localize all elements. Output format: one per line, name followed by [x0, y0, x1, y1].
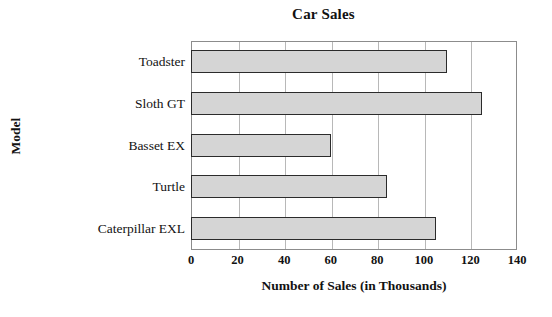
bar: [191, 134, 331, 157]
y-axis-category-labels: ToadsterSloth GTBasset EXTurtleCaterpill…: [0, 41, 185, 250]
x-axis-tick-label: 20: [231, 253, 244, 268]
bars-layer: [191, 41, 517, 250]
x-axis-tick-label: 40: [278, 253, 291, 268]
bar-row: [191, 41, 517, 83]
x-axis-tick-labels: 020406080100120140: [191, 253, 517, 273]
chart-figure: Car Sales ToadsterSloth GTBasset EXTurtl…: [0, 0, 552, 317]
y-axis-label: Basset EX: [0, 125, 185, 167]
x-axis-title: Number of Sales (in Thousands): [191, 278, 517, 294]
y-axis-label: Turtle: [0, 166, 185, 208]
x-axis-tick-label: 80: [371, 253, 384, 268]
bar-row: [191, 83, 517, 125]
x-axis-tick-label: 0: [188, 253, 194, 268]
bar: [191, 50, 447, 73]
bar-row: [191, 208, 517, 250]
x-axis-tick-label: 100: [414, 253, 433, 268]
x-axis-tick-label: 120: [461, 253, 480, 268]
bar: [191, 175, 387, 198]
y-axis-label: Sloth GT: [0, 83, 185, 125]
y-axis-label: Toadster: [0, 41, 185, 83]
y-axis-label: Caterpillar EXL: [0, 208, 185, 250]
bar-row: [191, 125, 517, 167]
bar: [191, 92, 482, 115]
y-axis-title: Model: [8, 96, 24, 176]
bar-row: [191, 166, 517, 208]
bar: [191, 217, 436, 240]
x-axis-tick-label: 60: [324, 253, 337, 268]
chart-title: Car Sales: [0, 6, 552, 23]
x-axis-tick-label: 140: [508, 253, 527, 268]
